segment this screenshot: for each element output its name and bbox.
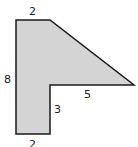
composite-shape <box>0 0 138 147</box>
diagram: 2 8 5 3 2 <box>0 0 138 147</box>
label-inner-vertical: 3 <box>54 104 61 115</box>
label-left: 8 <box>4 74 11 85</box>
label-bottom: 2 <box>29 139 36 147</box>
label-top: 2 <box>29 6 36 17</box>
label-base: 5 <box>84 89 91 100</box>
